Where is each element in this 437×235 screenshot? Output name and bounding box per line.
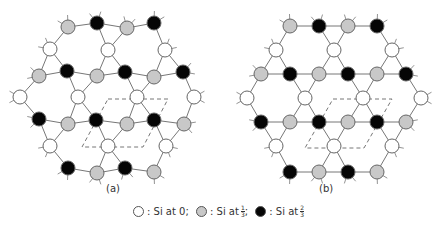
black-atom-icon <box>283 67 297 81</box>
gray-atom-icon <box>90 69 104 83</box>
gray-atom-icon <box>283 115 297 129</box>
white-atom-icon <box>327 43 341 57</box>
legend-text: : Si at <box>269 206 298 217</box>
gray-atom-icon <box>370 165 384 179</box>
gray-atom-icon <box>120 21 134 35</box>
black-atom-icon <box>341 67 355 81</box>
legend: : Si at 0; : Si at 1 3 ; : Si at 2 3 <box>0 205 437 219</box>
white-atom-icon <box>298 91 312 105</box>
white-atom-icon <box>43 139 57 153</box>
white-atom-icon <box>159 139 173 153</box>
gray-atom-icon <box>61 117 75 131</box>
gray-atom-icon <box>147 165 161 179</box>
black-atom-icon <box>89 113 103 127</box>
white-atom-icon <box>13 90 27 104</box>
black-atom-icon <box>370 19 384 33</box>
black-atom-icon <box>283 165 297 179</box>
white-atom-icon <box>133 206 144 217</box>
panel-label-b: (b) <box>319 183 333 194</box>
gray-atom-icon <box>399 115 413 129</box>
gray-atom-icon <box>312 165 326 179</box>
black-atom-icon <box>61 161 75 175</box>
white-atom-icon <box>158 43 172 57</box>
black-atom-icon <box>255 206 266 217</box>
panel-label-a: (a) <box>106 183 120 194</box>
gray-atom-icon <box>90 166 104 180</box>
white-atom-icon <box>356 91 370 105</box>
white-atom-icon <box>327 139 341 153</box>
black-atom-icon <box>254 115 268 129</box>
black-atom-icon <box>32 112 46 126</box>
white-atom-icon <box>414 91 428 105</box>
white-atom-icon <box>269 43 283 57</box>
black-atom-icon <box>370 115 384 129</box>
white-atom-icon <box>43 42 57 56</box>
atom-nodes <box>13 16 428 180</box>
white-atom-icon <box>385 139 399 153</box>
black-atom-icon <box>176 65 190 79</box>
white-atom-icon <box>240 91 254 105</box>
black-atom-icon <box>118 65 132 79</box>
gray-atom-icon <box>61 20 75 34</box>
black-atom-icon <box>147 113 161 127</box>
gray-atom-icon <box>147 70 161 84</box>
legend-item-si-0: : Si at 0; <box>133 206 189 217</box>
gray-atom-icon <box>312 67 326 81</box>
gray-atom-icon <box>120 117 134 131</box>
legend-text: : Si at 0; <box>147 206 189 217</box>
fraction-two-thirds: 2 3 <box>300 205 304 218</box>
black-atom-icon <box>118 161 132 175</box>
black-atom-icon <box>312 115 326 129</box>
gray-atom-icon <box>254 67 268 81</box>
gray-atom-icon <box>283 19 297 33</box>
white-atom-icon <box>101 43 115 57</box>
black-atom-icon <box>399 67 413 81</box>
white-atom-icon <box>269 139 283 153</box>
white-atom-icon <box>71 90 85 104</box>
white-atom-icon <box>187 90 201 104</box>
legend-item-si-one-third: : Si at 1 3 ; <box>196 205 248 218</box>
white-atom-icon <box>385 43 399 57</box>
black-atom-icon <box>147 16 161 30</box>
gray-atom-icon <box>370 67 384 81</box>
black-atom-icon <box>341 165 355 179</box>
legend-item-si-two-thirds: : Si at 2 3 <box>255 205 304 218</box>
gray-atom-icon <box>177 117 191 131</box>
black-atom-icon <box>90 16 104 30</box>
gray-atom-icon <box>32 69 46 83</box>
crystal-structure-diagram <box>0 0 437 235</box>
legend-text: : Si at <box>210 206 239 217</box>
gray-atom-icon <box>341 19 355 33</box>
gray-atom-icon <box>196 206 207 217</box>
gray-atom-icon <box>341 115 355 129</box>
black-atom-icon <box>60 64 74 78</box>
white-atom-icon <box>130 90 144 104</box>
white-atom-icon <box>101 139 115 153</box>
black-atom-icon <box>312 19 326 33</box>
